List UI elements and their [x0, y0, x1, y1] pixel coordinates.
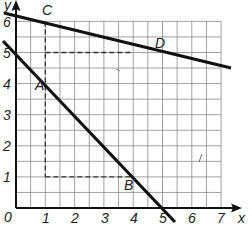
- y-tick-5: 5: [3, 45, 11, 61]
- x-tick-6: 6: [188, 210, 196, 226]
- y-tick-6: 6: [3, 14, 11, 30]
- x-tick-labels: 0 1 2 3 4 5 6 7 x: [4, 209, 246, 226]
- stray-mark: [116, 69, 120, 71]
- x-axis-label: x: [237, 210, 246, 226]
- y-axis-label: y: [3, 0, 12, 13]
- x-tick-1: 1: [42, 210, 50, 226]
- grid: [16, 21, 221, 208]
- coordinate-plane: 0 1 2 3 4 5 6 7 x 1 2 3 4 5 6 y A B C D: [0, 0, 252, 226]
- stray-mark: [199, 154, 202, 162]
- x-tick-2: 2: [70, 210, 79, 226]
- point-label-c: C: [42, 2, 53, 18]
- point-label-b: B: [124, 177, 133, 193]
- y-tick-1: 1: [3, 169, 11, 185]
- x-tick-5: 5: [159, 210, 167, 226]
- y-tick-4: 4: [3, 76, 11, 92]
- x-tick-3: 3: [101, 210, 109, 226]
- y-tick-labels: 1 2 3 4 5 6 y: [2, 0, 12, 185]
- x-tick-4: 4: [130, 210, 138, 226]
- y-tick-3: 3: [3, 107, 11, 123]
- point-label-a: A: [34, 77, 44, 93]
- y-tick-2: 2: [2, 138, 11, 154]
- origin-label: 0: [4, 209, 12, 225]
- x-tick-7: 7: [217, 210, 226, 226]
- point-label-d: D: [155, 35, 165, 51]
